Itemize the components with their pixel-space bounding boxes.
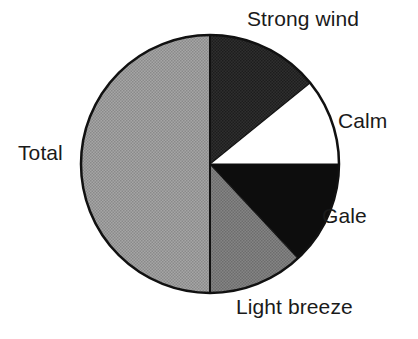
chart-plot-area: Strong wind Calm Gale Light breeze Total	[0, 0, 418, 339]
pie-chart-svg	[0, 0, 418, 339]
pie-label-strong-wind: Strong wind	[247, 8, 359, 30]
pie-chart-figure: Strong wind Calm Gale Light breeze Total	[0, 0, 418, 339]
pie-label-calm: Calm	[338, 110, 387, 132]
pie-label-total: Total	[18, 142, 63, 164]
pie-label-gale: Gale	[322, 205, 367, 227]
pie-label-light-breeze: Light breeze	[236, 296, 353, 318]
pie-slice-total	[81, 35, 210, 293]
